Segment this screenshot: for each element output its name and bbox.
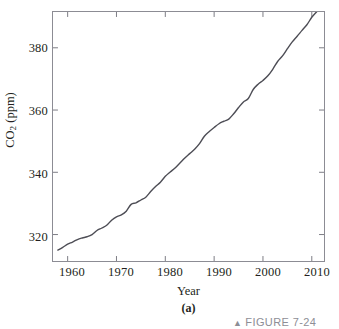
x-tick-label: 1990 [206,266,232,279]
figure-caption-text: FIGURE 7-24 [245,316,316,328]
plot-area [52,11,325,262]
x-tick-label: 2000 [255,266,281,279]
y-axis-title-suffix: (ppm) [3,92,17,126]
x-axis-tick-labels: 1960 1970 1980 1990 2000 2010 [0,266,339,282]
plot-svg [53,12,324,261]
x-tick-label: 1960 [59,266,85,279]
y-axis-title-prefix: CO [3,130,17,147]
y-axis-title: CO2 (ppm) [4,65,20,175]
y-tick-label: 340 [29,168,48,181]
x-tick-label: 1970 [108,266,134,279]
y-axis-title-subscript: 2 [8,126,18,131]
triangle-marker-icon: ▲ [233,317,242,329]
axis-tick-marks [53,12,324,261]
subfigure-label: (a) [52,302,325,315]
y-tick-label: 320 [29,231,48,244]
x-axis-title: Year [52,285,325,298]
x-tick-label: 1980 [157,266,183,279]
y-tick-label: 380 [29,42,48,55]
y-tick-label: 360 [29,105,48,118]
co2-line-series [58,12,317,250]
x-tick-label: 2010 [304,266,330,279]
figure-caption-fragment: ▲FIGURE 7-24 [233,316,316,329]
